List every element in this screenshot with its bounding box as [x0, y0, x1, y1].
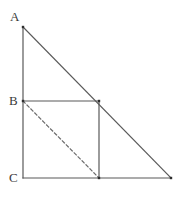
- vertex-label-c: C: [9, 171, 18, 184]
- hypotenuse-A-to-right: [23, 27, 171, 178]
- geometry-figure: A B C: [0, 0, 179, 199]
- dot-square-top-right: [98, 100, 100, 102]
- dot-square-bottom-right: [98, 177, 100, 179]
- vertex-label-a: A: [10, 10, 19, 23]
- dot-right-vertex: [170, 177, 172, 179]
- dashed-segment-group: [23, 101, 99, 178]
- dot-B: [22, 100, 24, 102]
- vertex-label-b: B: [9, 94, 18, 107]
- dot-A: [22, 26, 24, 28]
- square-diagonal: [23, 101, 99, 178]
- solid-segment-group: [23, 27, 171, 178]
- figure-canvas: [0, 0, 179, 199]
